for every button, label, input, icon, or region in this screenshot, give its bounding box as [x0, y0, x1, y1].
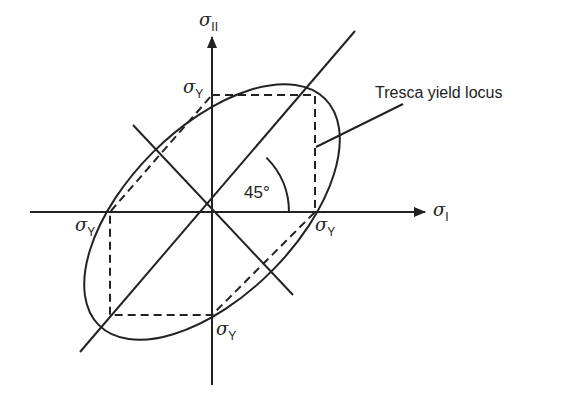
sigma-symbol: σ	[75, 214, 87, 235]
subscript: Y	[228, 329, 236, 343]
sigma-symbol: σ	[216, 318, 228, 339]
angle-label: 45°	[244, 184, 270, 201]
tresca-diagram	[0, 0, 562, 393]
sigma-I-label: σI	[433, 201, 449, 219]
subscript: II	[211, 20, 218, 34]
sigma-Y-left-label: σY	[75, 216, 95, 234]
sigma-symbol: σ	[315, 214, 327, 235]
subscript: I	[445, 210, 448, 224]
subscript: Y	[327, 225, 335, 239]
diagonal-line-45	[80, 31, 355, 352]
sigma-symbol: σ	[199, 9, 211, 30]
angle-arc	[266, 158, 289, 212]
sigma-symbol: σ	[183, 76, 195, 97]
sigma-II-label: σII	[199, 11, 218, 29]
subscript: Y	[87, 225, 95, 239]
sigma-Y-bottom-label: σY	[216, 320, 236, 338]
sigma-symbol: σ	[433, 199, 445, 220]
subscript: Y	[195, 87, 203, 101]
sigma-Y-top-label: σY	[183, 78, 203, 96]
locus-leader-line	[316, 104, 403, 147]
sigma-Y-right-label: σY	[315, 216, 335, 234]
tresca-locus-label: Tresca yield locus	[375, 85, 502, 101]
